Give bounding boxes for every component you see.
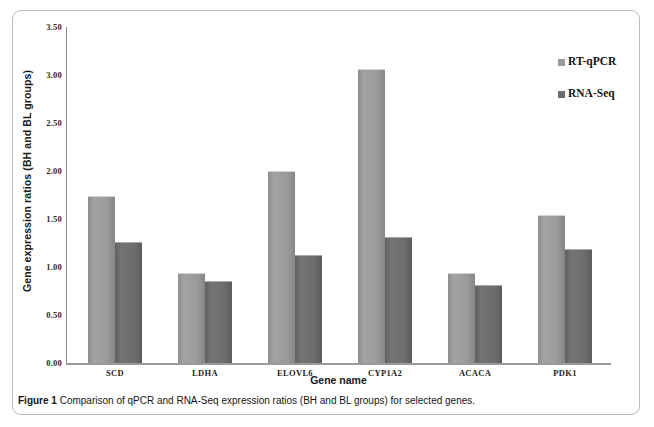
figure-caption-text: Comparison of qPCR and RNA-Seq expressio…: [60, 395, 475, 406]
y-axis-tick-label: 2.50: [28, 118, 62, 128]
y-axis-tick-label: 1.50: [28, 214, 62, 224]
legend-swatch-icon: [558, 91, 565, 98]
y-axis-tick-label: 1.00: [28, 262, 62, 272]
legend-item[interactable]: RNA-Seq: [558, 87, 648, 119]
legend-swatch-icon: [558, 59, 565, 66]
legend-label: RNA-Seq: [568, 87, 615, 99]
chart-legend: RT-qPCRRNA-Seq: [558, 55, 648, 119]
figure-caption: Figure 1 Comparison of qPCR and RNA-Seq …: [18, 394, 636, 408]
y-axis-tick-label: 3.00: [28, 70, 62, 80]
y-axis-title: Gene expression ratios (BH and BL groups…: [21, 66, 33, 296]
y-axis-tick-label: 0.50: [28, 310, 62, 320]
chart-plot-area: 3.503.002.502.001.501.000.500.00 Gene ex…: [0, 0, 654, 390]
legend-item[interactable]: RT-qPCR: [558, 55, 648, 87]
x-axis-category-labels: SCDLDHAELOVL6CYP1A2ACACAPDK1: [66, 0, 611, 390]
figure-container: 3.503.002.502.001.501.000.500.00 Gene ex…: [0, 0, 654, 427]
figure-caption-label: Figure 1: [18, 395, 57, 406]
y-axis-tick-label: 2.00: [28, 166, 62, 176]
y-axis-tick-label: 0.00: [28, 358, 62, 368]
y-axis-tick-label: 3.50: [28, 22, 62, 32]
x-axis-title: Gene name: [66, 374, 611, 386]
legend-label: RT-qPCR: [568, 55, 616, 67]
